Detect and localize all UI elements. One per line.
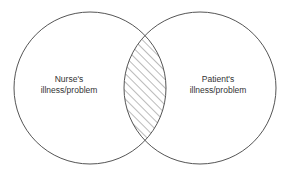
nurse-label-line2: illness/problem xyxy=(41,85,98,95)
venn-diagram: Nurse's illness/problem Patient's illnes… xyxy=(0,0,284,171)
patient-label-line2: illness/problem xyxy=(190,85,247,95)
nurse-label-line1: Nurse's xyxy=(55,74,84,84)
patient-label-line1: Patient's xyxy=(202,74,234,84)
